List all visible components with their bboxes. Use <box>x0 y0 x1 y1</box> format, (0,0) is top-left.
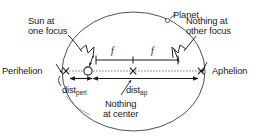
planet-marker-icon <box>165 18 169 22</box>
perihelion-leader-line <box>56 64 62 73</box>
dist-ap-subscript: ap <box>140 89 147 96</box>
dist-peri-label: distperi <box>62 85 87 95</box>
center-label: Nothing at center <box>103 100 138 120</box>
dist-ap-label: distap <box>126 85 147 95</box>
dist-peri-base: dist <box>62 85 76 95</box>
other-focus-label-line2: other focus <box>186 27 231 37</box>
center-label-line2: at center <box>103 110 138 120</box>
perihelion-label: Perihelion <box>2 66 42 76</box>
sun-marker-icon <box>84 67 92 75</box>
aphelion-label: Aphelion <box>212 66 247 76</box>
sun-label: Sun at one focus <box>28 17 67 37</box>
dist-ap-base: dist <box>126 85 140 95</box>
diagram-canvas: Sun at one focus Planet Nothing at other… <box>0 0 257 139</box>
other-focus-label: Nothing at other focus <box>186 17 231 37</box>
focal-distance-bar <box>96 56 178 65</box>
dist-peri-subscript: peri <box>76 89 87 96</box>
sun-label-line2: one focus <box>28 27 67 37</box>
focal-distance-right-label: f <box>151 45 154 56</box>
dist-peri-leader-line <box>59 76 61 86</box>
focal-distance-left-label: f <box>111 45 114 56</box>
sun-leader-arrow <box>90 56 94 66</box>
perihelion-x-marker <box>63 68 69 75</box>
other-focus-leader-squiggle <box>172 45 186 58</box>
